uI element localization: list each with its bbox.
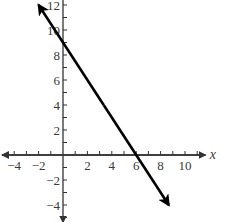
x-axis — [2, 151, 206, 155]
x-axis-title: x — [209, 147, 217, 162]
y-tick-label: 8 — [54, 48, 61, 63]
x-tick-label: 8 — [157, 158, 164, 173]
y-tick-label: −4 — [46, 198, 60, 213]
x-tick-label: 2 — [84, 158, 91, 173]
y-tick-label: 2 — [54, 123, 61, 138]
y-tick-labels: −4−224681012 — [46, 0, 60, 213]
x-tick-label: 10 — [179, 158, 192, 173]
x-tick-label: 4 — [109, 158, 116, 173]
y-tick-label: 6 — [54, 73, 61, 88]
y-tick-label: −2 — [46, 173, 60, 188]
y-axis — [63, 0, 67, 222]
x-tick-label: −4 — [7, 158, 21, 173]
y-tick-label: 12 — [47, 0, 60, 13]
y-tick-label: 4 — [54, 98, 61, 113]
x-tick-labels: −4−2246810 — [7, 158, 191, 173]
coordinate-plane: −4−2246810 −4−224681012 x — [0, 0, 229, 222]
line-upper-arrow — [39, 5, 104, 105]
x-tick-label: −2 — [32, 158, 46, 173]
